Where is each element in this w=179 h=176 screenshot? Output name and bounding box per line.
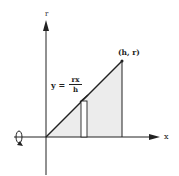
equation-fraction: rx h bbox=[69, 76, 82, 93]
equation-numerator: rx bbox=[69, 76, 82, 85]
strip-rectangle bbox=[81, 101, 87, 137]
equation-denominator: h bbox=[69, 85, 82, 93]
diagram-graphics bbox=[0, 0, 179, 176]
y-axis-arrow-icon bbox=[43, 20, 49, 31]
x-axis-arrow-icon bbox=[149, 134, 160, 140]
y-axis-label: r bbox=[45, 11, 48, 18]
x-axis-label: x bbox=[164, 133, 169, 141]
diagram-canvas: r x (h, r) y = rx h bbox=[0, 0, 179, 176]
rotation-arrow-icon bbox=[16, 131, 23, 146]
point-label: (h, r) bbox=[118, 49, 140, 57]
equation-lhs: y = bbox=[51, 81, 65, 89]
point-h-r bbox=[121, 60, 124, 63]
